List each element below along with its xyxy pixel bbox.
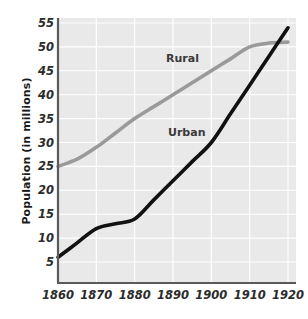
- y-tick-label: 40: [28, 88, 54, 102]
- y-tick-label: 55: [28, 16, 54, 30]
- y-tick-label: 25: [28, 159, 54, 173]
- x-tick-label: 1920: [266, 288, 308, 302]
- y-tick-label: 35: [28, 112, 54, 126]
- y-tick-label: 10: [28, 231, 54, 245]
- y-axis-tick-labels: 510152025303540455055: [24, 0, 54, 319]
- y-tick-label: 20: [28, 183, 54, 197]
- population-line-chart: Population (in millions) 510152025303540…: [0, 0, 308, 319]
- series-label-urban: Urban: [168, 126, 206, 139]
- series-label-rural: Rural: [166, 52, 199, 65]
- y-tick-label: 50: [28, 40, 54, 54]
- y-tick-label: 15: [28, 207, 54, 221]
- y-tick-label: 5: [28, 255, 54, 269]
- y-tick-label: 30: [28, 136, 54, 150]
- y-tick-label: 45: [28, 64, 54, 78]
